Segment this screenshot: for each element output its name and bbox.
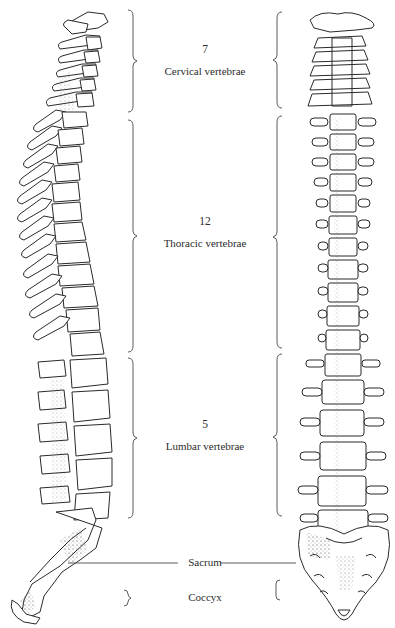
sacrum-label: Sacrum bbox=[130, 556, 280, 569]
lateral-spine bbox=[11, 12, 112, 624]
spine-diagram: 7 Cervical vertebrae 12 Thoracic vertebr… bbox=[0, 0, 395, 628]
cervical-count: 7 bbox=[130, 43, 280, 56]
coccyx-label: Coccyx bbox=[130, 591, 280, 604]
bracket-left-cervical bbox=[128, 10, 137, 112]
bracket-left-lumbar bbox=[128, 358, 137, 518]
thoracic-label: Thoracic vertebrae bbox=[130, 237, 280, 250]
thoracic-count: 12 bbox=[130, 215, 280, 228]
bracket-right-lumbar bbox=[273, 354, 282, 516]
lumbar-label: Lumbar vertebrae bbox=[130, 440, 280, 453]
spine-illustration bbox=[0, 0, 395, 628]
bracket-right-cervical bbox=[273, 12, 282, 108]
cervical-label: Cervical vertebrae bbox=[130, 65, 280, 78]
anterior-spine bbox=[298, 13, 390, 620]
bracket-left-thoracic bbox=[128, 120, 137, 352]
lumbar-count: 5 bbox=[130, 418, 280, 431]
bracket-right-thoracic bbox=[273, 116, 282, 348]
